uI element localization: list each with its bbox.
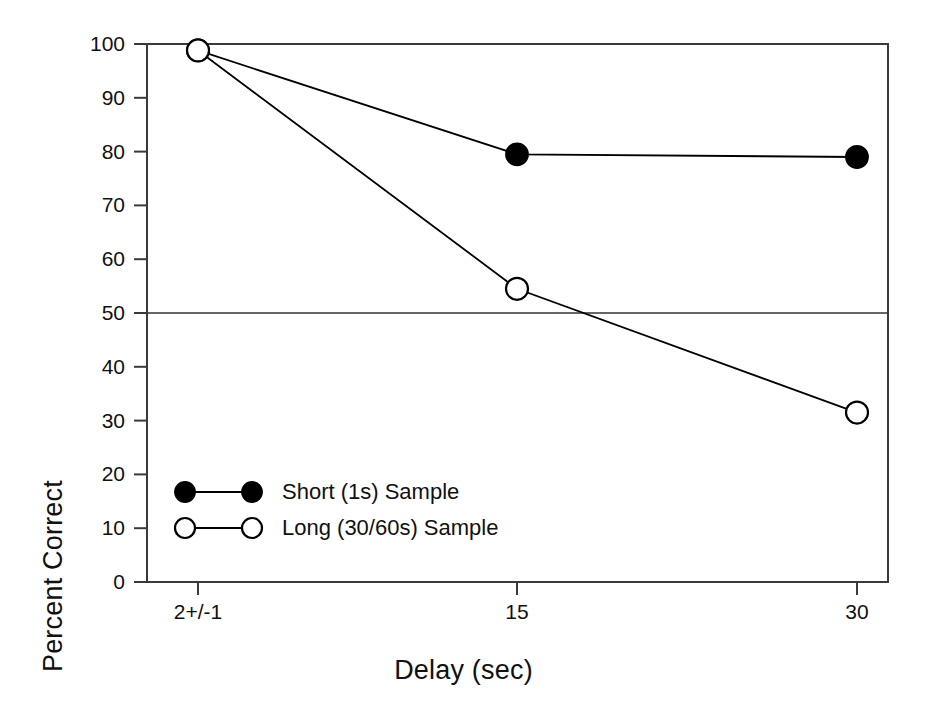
x-tick-label: 30 bbox=[845, 600, 868, 624]
y-tick-label: 50 bbox=[102, 301, 125, 325]
legend-entry-label: Short (1s) Sample bbox=[282, 479, 459, 505]
series-line bbox=[198, 50, 857, 412]
legend-marker bbox=[242, 482, 262, 502]
legend-entry-label: Long (30/60s) Sample bbox=[282, 515, 498, 541]
chart-figure: Percent Correct Delay (sec) 010203040506… bbox=[0, 0, 927, 716]
data-point-marker bbox=[506, 143, 528, 165]
legend-marker bbox=[175, 482, 195, 502]
legend bbox=[175, 482, 262, 538]
y-tick-label: 90 bbox=[102, 86, 125, 110]
data-point-marker bbox=[506, 278, 528, 300]
data-point-marker bbox=[846, 146, 868, 168]
series-line bbox=[198, 50, 857, 157]
y-tick-label: 0 bbox=[113, 570, 125, 594]
data-point-marker bbox=[187, 39, 209, 61]
plot-area bbox=[0, 0, 927, 716]
y-tick-label: 30 bbox=[102, 409, 125, 433]
legend-marker bbox=[175, 518, 195, 538]
x-tick-label: 15 bbox=[505, 600, 528, 624]
y-tick-label: 60 bbox=[102, 247, 125, 271]
y-axis-ticks bbox=[134, 44, 147, 582]
y-tick-label: 40 bbox=[102, 355, 125, 379]
data-point-marker bbox=[846, 402, 868, 424]
y-tick-label: 80 bbox=[102, 140, 125, 164]
y-tick-label: 100 bbox=[90, 32, 125, 56]
legend-marker bbox=[242, 518, 262, 538]
y-tick-label: 10 bbox=[102, 516, 125, 540]
y-tick-label: 20 bbox=[102, 462, 125, 486]
x-tick-label: 2+/-1 bbox=[174, 600, 222, 624]
data-series bbox=[187, 39, 868, 423]
x-axis-ticks bbox=[198, 582, 857, 595]
y-tick-label: 70 bbox=[102, 193, 125, 217]
